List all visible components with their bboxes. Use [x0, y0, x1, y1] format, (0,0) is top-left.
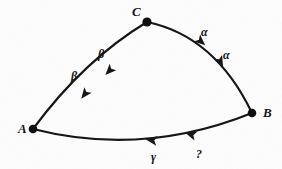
- vertex-dot-c: [142, 17, 151, 26]
- diagram-canvas: [0, 0, 282, 169]
- edge-label-gamma: γ: [151, 151, 156, 163]
- edge-label-beta-lower: β: [71, 70, 77, 82]
- edge-label-question: ?: [196, 148, 202, 160]
- edge-b-to-a: [33, 113, 252, 140]
- edge-label-beta-upper: β: [98, 48, 104, 60]
- arrowhead-gamma: [144, 134, 157, 145]
- edge-c-to-b: [147, 22, 252, 113]
- vertex-dot-a: [29, 125, 38, 134]
- vertex-dot-b: [248, 109, 257, 118]
- arrowhead-beta-lower: [78, 87, 92, 101]
- arrowhead-beta-upper: [102, 64, 116, 78]
- edge-label-alpha-upper: α: [201, 26, 208, 38]
- vertex-label-b: B: [263, 106, 272, 119]
- figure-container: A B C β β α α γ ?: [0, 0, 282, 169]
- vertex-label-c: C: [132, 5, 141, 18]
- edge-c-to-a: [33, 22, 147, 129]
- vertex-label-a: A: [18, 122, 27, 135]
- edge-label-alpha-lower: α: [223, 49, 230, 61]
